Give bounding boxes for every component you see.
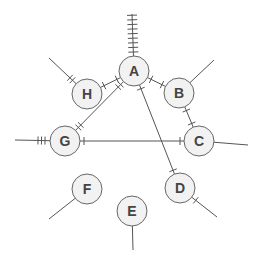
tick-mark <box>160 81 164 88</box>
ray-a <box>127 14 138 56</box>
node-b: B <box>164 78 194 108</box>
node-f: F <box>72 174 102 204</box>
ray-line <box>132 226 133 250</box>
edge-a-b <box>147 76 165 88</box>
ray-f <box>49 198 75 219</box>
tick-mark <box>102 82 106 89</box>
ray-line <box>49 58 76 84</box>
edge-g-c <box>80 137 184 145</box>
node-c: C <box>184 126 214 156</box>
node-label: H <box>82 86 92 102</box>
node-label: D <box>175 180 185 196</box>
ray-d <box>192 197 217 217</box>
node-h: H <box>72 79 102 109</box>
ray-line <box>49 198 75 219</box>
ray-b <box>190 60 214 83</box>
tick-mark <box>193 197 198 203</box>
ray-line <box>214 142 248 145</box>
tick-mark <box>149 76 153 83</box>
node-label: F <box>83 181 92 197</box>
node-label: A <box>129 63 139 79</box>
ray-line <box>190 60 214 83</box>
node-label: G <box>60 133 71 149</box>
ray-c <box>214 142 248 145</box>
edge-b-c <box>183 107 196 127</box>
node-label: C <box>194 133 204 149</box>
node-label: B <box>174 85 184 101</box>
node-g: G <box>50 126 80 156</box>
graph-diagram: ABCDEFGH <box>0 0 260 262</box>
node-d: D <box>165 173 195 203</box>
ray-e <box>132 226 133 250</box>
node-e: E <box>117 196 147 226</box>
ray-g <box>15 136 50 144</box>
graph-svg: ABCDEFGH <box>0 0 260 262</box>
ray-h <box>49 58 76 84</box>
node-a: A <box>119 56 149 86</box>
node-label: E <box>127 203 136 219</box>
